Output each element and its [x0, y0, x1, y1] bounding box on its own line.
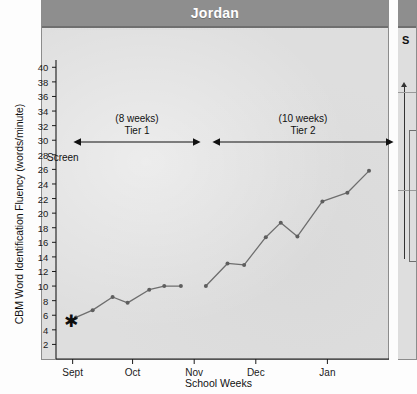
axis-line-partial [404, 86, 405, 259]
plot-area [42, 30, 388, 359]
page-title: Jordan [191, 5, 239, 21]
panel-title-partial: S [402, 34, 409, 46]
annotation-box-partial [409, 130, 417, 262]
panel-header-partial [398, 0, 416, 28]
x-axis-title: School Weeks [0, 377, 417, 389]
x-tick-label: Jan [304, 367, 350, 378]
panel-header: Jordan [42, 0, 388, 28]
y-axis-title: CBM Word Identification Fluency (words/m… [13, 99, 25, 329]
x-tick-label: Nov [171, 367, 217, 378]
chart-panel-next-partial: S [398, 0, 417, 360]
divider [398, 92, 416, 93]
plot-area-partial [398, 30, 416, 359]
x-tick-label: Dec [233, 367, 279, 378]
x-tick-label: Oct [110, 367, 156, 378]
x-tick-label: Sept [50, 367, 96, 378]
chart-panel-jordan: Jordan [41, 0, 389, 360]
